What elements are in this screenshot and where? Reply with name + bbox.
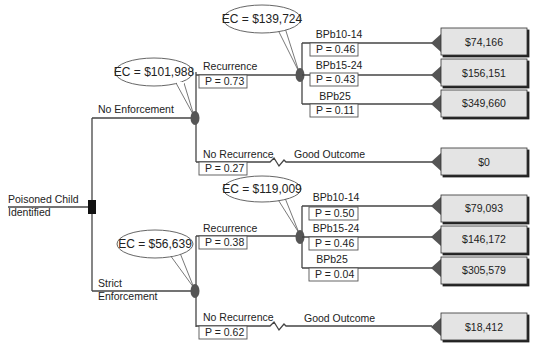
chance-node-icon (191, 284, 200, 298)
probability-value: P = 0.43 (316, 73, 355, 85)
probability-value: P = 0.46 (316, 43, 355, 55)
probability-value: P = 0.46 (315, 237, 354, 249)
ec-callout-pointer (277, 28, 299, 72)
ec-value: EC = $56,639 (118, 237, 192, 251)
payoff-value: $146,172 (462, 233, 506, 245)
terminal-node-icon (431, 259, 441, 277)
no-enforcement-label: No Enforcement (98, 103, 174, 115)
probability-value: P = 0.27 (205, 162, 244, 174)
payoff-value: $349,660 (462, 97, 506, 109)
ec-value: EC = $139,724 (222, 12, 303, 26)
payoff-value: $79,093 (465, 202, 503, 214)
good-outcome-label: Good Outcome (304, 312, 375, 324)
payoff-value: $0 (478, 156, 490, 168)
outcome-label: BPb10-14 (313, 191, 360, 203)
terminal-node-icon (431, 95, 441, 113)
good-outcome-label: Good Outcome (294, 148, 365, 160)
payoff-value: $305,579 (462, 264, 506, 276)
probability-value: P = 0.11 (316, 104, 355, 116)
outcome-label: BPb15-24 (316, 59, 363, 71)
probability-value: P = 0.50 (315, 207, 354, 219)
decision-tree: Poisoned Child Identified No Enforcement… (0, 0, 536, 352)
root-label-line2: Identified (8, 206, 51, 218)
probability-value: P = 0.73 (205, 75, 244, 87)
ec-value: EC = $101,988 (114, 65, 195, 79)
ec-callout-pointer (170, 253, 194, 288)
payoff-value: $156,151 (462, 67, 506, 79)
ec-callout-pointer (176, 83, 194, 116)
recurrence-label: Recurrence (203, 222, 257, 234)
probability-value: P = 0.62 (205, 326, 244, 338)
probability-value: P = 0.04 (315, 268, 354, 280)
terminal-node-icon (431, 318, 441, 336)
decision-node-icon (88, 200, 96, 214)
recurrence-label: Recurrence (203, 60, 257, 72)
strict-enforcement-label-line1: Strict (98, 277, 122, 289)
terminal-node-icon (431, 66, 441, 84)
terminal-node-icon (431, 228, 441, 246)
no-recurrence-label: No Recurrence (203, 148, 274, 160)
outcome-label: BPb15-24 (313, 222, 360, 234)
probability-value: P = 0.38 (205, 236, 244, 248)
outcome-label: BPb10-14 (316, 28, 363, 40)
terminal-node-icon (431, 197, 441, 215)
ec-callout-pointer (277, 198, 299, 233)
root-label-line1: Poisoned Child (8, 193, 79, 205)
outcome-label: BPb25 (319, 90, 351, 102)
no-recurrence-label: No Recurrence (203, 311, 274, 323)
chance-node-icon (191, 111, 200, 125)
outcome-label: BPb25 (316, 253, 348, 265)
terminal-node-icon (431, 153, 441, 171)
strict-enforcement-label-line2: Enforcement (98, 290, 158, 302)
terminal-node-icon (431, 34, 441, 52)
ec-value: EC = $119,009 (222, 182, 302, 196)
payoff-value: $18,412 (465, 321, 503, 333)
payoff-value: $74,166 (465, 36, 503, 48)
